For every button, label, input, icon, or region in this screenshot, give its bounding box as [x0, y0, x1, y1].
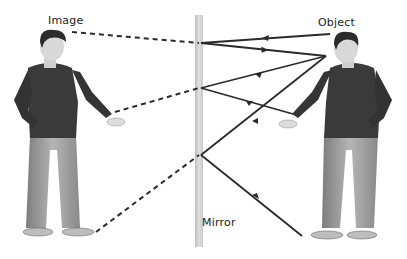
object-label: Object: [318, 16, 355, 29]
image-person: [14, 30, 125, 236]
mirror-label: Mirror: [202, 216, 236, 229]
mirror-reflection-diagram: Image Object Mirror: [0, 0, 407, 259]
image-label: Image: [48, 14, 83, 27]
mirror: [195, 15, 203, 247]
real-rays: [201, 34, 330, 236]
virtual-rays: [72, 32, 199, 232]
